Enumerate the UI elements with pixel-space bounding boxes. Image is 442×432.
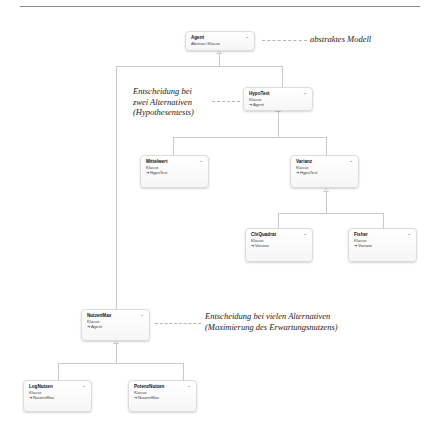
parent-class: HypoTest: [296, 170, 353, 177]
chevron-down-icon[interactable]: ⌄: [199, 158, 203, 164]
connector-varianz-down: [326, 192, 327, 213]
leader-abstract-model: [262, 40, 307, 41]
connector-hypotest-down: [278, 112, 279, 137]
class-node-lognutzen[interactable]: LogNutzen Klasse NutzenMax ⌄: [23, 380, 92, 412]
annotation-line: zwei Alternativen: [133, 97, 194, 108]
connector-varianz-horizontal: [278, 213, 384, 214]
chevron-down-icon[interactable]: ⌄: [349, 158, 353, 164]
chevron-down-icon[interactable]: ⌄: [407, 231, 411, 237]
connector-to-lognutzen: [58, 363, 59, 380]
chevron-down-icon[interactable]: ⌄: [187, 383, 191, 389]
annotation-abstract-model: abstraktes Modell: [310, 34, 371, 45]
connector-nutzenmax-horizontal: [58, 363, 184, 364]
connector-to-varianz: [326, 137, 327, 155]
connector-nutzenmax-down: [116, 344, 117, 363]
inheritance-arrow-varianz: [323, 188, 329, 192]
annotation-line: (Maximierung des Erwartungsnutzens): [205, 322, 338, 333]
class-node-mittelwert[interactable]: Mittelwert Klasse HypoTest ⌄: [140, 155, 209, 188]
annotation-two-alternatives: Entscheidung bei zwei Alternativen (Hypo…: [133, 86, 194, 118]
annotation-line: Entscheidung bei vielen Alternativen: [205, 311, 338, 322]
leader-two-alternatives: [212, 101, 240, 102]
chevron-down-icon[interactable]: ⌄: [303, 90, 307, 96]
connector-to-nutzenmax: [116, 66, 117, 310]
class-node-potenznutzen[interactable]: PotenzNutzen Klasse NutzenMax ⌄: [128, 380, 197, 412]
leader-many-alternatives: [155, 323, 201, 324]
class-node-nutzenmax[interactable]: NutzenMax Klasse Agent ⌄: [81, 309, 150, 341]
annotation-line: Entscheidung bei: [133, 86, 194, 97]
connector-to-chiquadrat: [278, 213, 279, 228]
class-node-hypotest[interactable]: HypoTest Klasse Agent ⌄: [243, 87, 313, 111]
parent-class: NutzenMax: [29, 395, 86, 402]
chevron-down-icon[interactable]: ⌄: [245, 34, 249, 40]
parent-class: Agent: [87, 324, 144, 331]
parent-class: Agent: [249, 102, 307, 109]
top-rule: [20, 6, 420, 7]
connector-to-hypotest: [282, 66, 283, 88]
class-node-chiquadrat[interactable]: ChiQuadrat Klasse Varianz ⌄: [245, 228, 313, 262]
chevron-down-icon[interactable]: ⌄: [303, 231, 307, 237]
connector-to-mittelwert: [173, 137, 174, 155]
class-node-varianz[interactable]: Varianz Klasse HypoTest ⌄: [290, 155, 359, 188]
parent-class: Varianz: [251, 243, 307, 250]
annotation-many-alternatives: Entscheidung bei vielen Alternativen (Ma…: [205, 311, 338, 332]
connector-hypotest-horizontal: [173, 137, 327, 138]
parent-class: HypoTest: [146, 170, 203, 177]
class-node-agent[interactable]: Agent Abstract Klasse ⌄: [185, 31, 255, 51]
chevron-down-icon[interactable]: ⌄: [82, 383, 86, 389]
class-node-fisher[interactable]: Fisher Klasse Varianz ⌄: [348, 228, 417, 262]
connector-to-potenznutzen: [183, 363, 184, 380]
connector-to-fisher: [383, 213, 384, 228]
connector-agent-down: [219, 54, 220, 66]
chevron-down-icon[interactable]: ⌄: [140, 312, 144, 318]
parent-class: Varianz: [354, 243, 411, 250]
class-kind: Abstract Klasse: [191, 41, 249, 47]
annotation-line: (Hypothesentests): [133, 107, 194, 118]
annotation-text: abstraktes Modell: [310, 34, 371, 44]
connector-agent-horizontal: [116, 66, 283, 67]
parent-class: NutzenMax: [134, 395, 191, 402]
